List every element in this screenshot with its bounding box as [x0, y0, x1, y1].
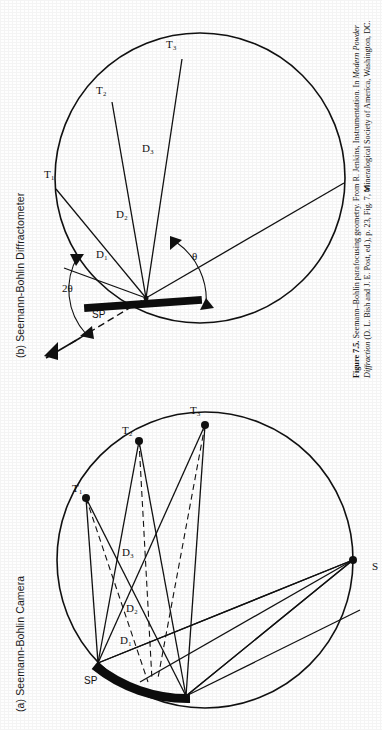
- two-theta-arc-b: [69, 256, 86, 334]
- rotated-scan-canvas: (a) Seemann-Bohlin Camera: [0, 0, 382, 730]
- source-point-s-a: [349, 556, 357, 564]
- caption-text-1: Seemann–Bohlin parafocusing geometry. Fr…: [352, 79, 361, 339]
- dashed-a-1: [86, 498, 148, 682]
- incident-a-2: [186, 560, 353, 696]
- dashed-a-3: [158, 425, 205, 678]
- ray-b-3: [112, 102, 146, 298]
- label-d2-a: D₂: [126, 602, 138, 614]
- label-t3-b: T₃: [166, 38, 177, 50]
- label-d1-a: D₁: [120, 634, 132, 646]
- ray-a-9: [186, 610, 360, 696]
- panel-b-diagram: SP 2θ θ T₁ T₂ T₃ S D₁ D₂: [0, 4, 382, 364]
- theta-arrow-2-b: [170, 236, 182, 250]
- figure-page: (a) Seemann-Bohlin Camera: [0, 0, 382, 730]
- caption-text-2: (D. L. Bish and J. E. Post, ed.), p. 23,…: [363, 20, 372, 341]
- label-sp-a: SP: [84, 675, 98, 686]
- focusing-circle-a: [57, 412, 353, 708]
- label-sp-b: SP: [92, 309, 106, 320]
- ray-a-1: [86, 498, 98, 663]
- specimen-arc-a: [95, 666, 191, 699]
- label-t3-a: T₃: [190, 404, 201, 416]
- label-s-a: S: [372, 560, 378, 572]
- label-t2-b: T₂: [96, 84, 107, 96]
- label-two-theta-b: 2θ: [62, 282, 73, 294]
- figure-number: Figure 7.5.: [352, 341, 361, 378]
- ray-a-7: [186, 425, 205, 696]
- label-t1-a: T₁: [72, 482, 83, 494]
- label-theta-b: θ: [192, 250, 197, 262]
- ray-b-4: [146, 59, 182, 298]
- theta-arrow-1-b: [200, 298, 214, 310]
- label-t1-b: T₁: [44, 168, 55, 180]
- focusing-circle-b: [55, 33, 345, 323]
- detector-point-t2-a: [135, 437, 143, 445]
- caption-italic-1: Modern Powder: [352, 25, 361, 78]
- label-d1-b: D₁: [96, 248, 108, 260]
- panel-a-diagram: SP T₁ T₂ T₃ S D₁ D₂ D₃: [0, 390, 382, 730]
- caption-italic-2: Diffraction: [363, 342, 372, 378]
- label-t2-a: T₂: [122, 424, 133, 436]
- detector-point-t3-a: [201, 421, 209, 429]
- label-d2-b: D₂: [116, 208, 128, 220]
- figure-caption: Figure 7.5. Seemann–Bohlin parafocusing …: [352, 12, 373, 378]
- label-d3-b: D₃: [142, 142, 154, 154]
- detector-point-t1-a: [82, 494, 90, 502]
- two-theta-arrow-2-b: [70, 254, 84, 266]
- ray-a-6: [139, 441, 186, 696]
- label-d3-a: D₃: [122, 546, 134, 558]
